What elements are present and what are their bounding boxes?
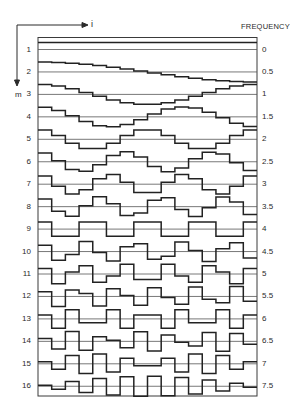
row-index-label: 6 <box>11 157 31 167</box>
frequency-label: 6.5 <box>262 336 273 346</box>
row-index-label: 13 <box>11 314 31 324</box>
frequency-label: 2.5 <box>262 157 273 167</box>
frequency-label: 5.5 <box>262 291 273 301</box>
i-axis-arrow <box>17 23 88 28</box>
frequency-label: 4.5 <box>262 247 273 257</box>
i-axis-label: i <box>91 19 93 29</box>
row-index-label: 10 <box>11 247 31 257</box>
row-index-label: 15 <box>11 359 31 369</box>
row-index-label: 1 <box>11 45 31 55</box>
row-index-label: 16 <box>11 381 31 391</box>
row-index-label: 7 <box>11 179 31 189</box>
frequency-label: 1 <box>262 89 266 99</box>
row-index-label: 2 <box>11 67 31 77</box>
frequency-label: 7.5 <box>262 381 273 391</box>
frequency-label: 4 <box>262 224 266 234</box>
row-index-label: 4 <box>11 112 31 122</box>
frequency-label: 2 <box>262 134 266 144</box>
frequency-label: 0 <box>262 45 266 55</box>
row-index-label: 14 <box>11 336 31 346</box>
row-index-label: 3 <box>11 89 31 99</box>
basis-waveforms <box>38 42 257 396</box>
row-index-label: 9 <box>11 224 31 234</box>
frequency-label: 0.5 <box>262 67 273 77</box>
row-index-label: 11 <box>11 269 31 279</box>
dct-basis-diagram <box>0 0 292 410</box>
row-index-label: 12 <box>11 291 31 301</box>
row-index-label: 5 <box>11 134 31 144</box>
frequency-label: 3 <box>262 179 266 189</box>
row-index-label: 8 <box>11 202 31 212</box>
frequency-label: 6 <box>262 314 266 324</box>
frequency-header: FREQUENCY <box>241 22 290 31</box>
frequency-label: 7 <box>262 359 266 369</box>
frequency-label: 1.5 <box>262 112 273 122</box>
frequency-label: 3.5 <box>262 202 273 212</box>
frequency-label: 5 <box>262 269 266 279</box>
